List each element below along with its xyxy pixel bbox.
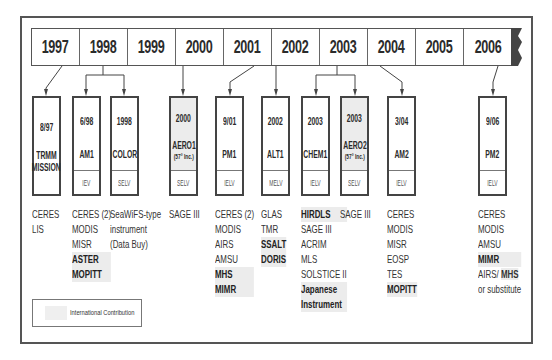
instrument-item: SAGE III [169, 207, 200, 222]
mission-name-line: PM2 [485, 148, 499, 160]
instrument-item: MOPITT [72, 267, 111, 282]
year-cell-2000: 2000 [176, 29, 224, 65]
instrument-item: instrument [110, 222, 161, 237]
timeline-year-bar: 1997199819992000200120022003200420052006 [31, 28, 513, 66]
mission-box-trmm: 8/97TRMMMISSION [32, 96, 61, 196]
mission-box-header: 3/04AM2 [389, 98, 414, 174]
mission-date: 2003 [308, 115, 323, 127]
mission-name: AERO2(57° Inc.) [336, 139, 374, 163]
instrument-list-aero2: SAGE III [340, 207, 383, 222]
instrument-item: MIMR [478, 252, 521, 267]
mission-name-line: ALT1 [267, 148, 284, 160]
instrument-item: Japanese [301, 282, 347, 297]
launch-vehicle-cell: IEV [74, 170, 99, 194]
year-cell-1999: 1999 [128, 29, 176, 65]
year-label: 2006 [475, 37, 502, 58]
instrument-item: Instrument [301, 297, 347, 312]
instrument-list-aero1: SAGE III [169, 207, 212, 222]
mission-name-line: AERO2 [343, 139, 367, 151]
instrument-item: CERES (2) [72, 207, 111, 222]
instrument-item: MODIS [387, 222, 417, 237]
launch-vehicle-label: IELV [487, 177, 497, 189]
mission-box-am2: 3/04AM2IELV [387, 96, 416, 196]
launch-vehicle-label: IEV [83, 177, 91, 189]
launch-vehicle-cell: IELV [217, 170, 242, 194]
year-label: 2001 [234, 37, 261, 58]
mission-box-chem1: 2003CHEM1IELV [301, 96, 330, 196]
mission-date: 2000 [176, 112, 191, 124]
instrument-item: EOSP [387, 252, 417, 267]
legend-label: International Contribution [70, 308, 134, 317]
year-label: 1997 [42, 37, 69, 58]
year-cell-1998: 1998 [80, 29, 128, 65]
instrument-item: MIMR [215, 282, 254, 297]
launch-vehicle-label: SELV [348, 177, 360, 189]
mission-box-header: 2000AERO1(57° Inc.) [171, 98, 196, 174]
mission-date: 8/97 [40, 121, 53, 133]
mission-name: AM1 [75, 148, 98, 160]
instrument-item: MHS [215, 267, 254, 282]
year-label: 2000 [186, 37, 213, 58]
instrument-text-international: MHS [501, 268, 519, 280]
launch-vehicle-label: IELV [224, 177, 234, 189]
mission-inclination-note: (57° Inc.) [344, 151, 364, 163]
mission-box-header: 2003AERO2(57° Inc.) [342, 98, 367, 174]
mission-box-pm1: 9/01PM1IELV [215, 96, 244, 196]
legend: International Contribution [32, 299, 142, 327]
instrument-item: MODIS [215, 222, 254, 237]
mission-name: PM1 [218, 148, 241, 160]
mission-date: 2002 [268, 115, 283, 127]
instrument-item: LIS [32, 222, 59, 237]
instrument-item: AIRS/ MHS [478, 267, 521, 282]
instrument-item: GLAS [261, 207, 286, 222]
launch-vehicle-cell: SELV [112, 170, 137, 194]
mission-box-header: 8/97TRMMMISSION [34, 98, 59, 194]
timeline-end-flag-icon [511, 28, 522, 66]
instrument-item: ACRIM [301, 237, 347, 252]
instrument-item: CERES (2) [215, 207, 254, 222]
instrument-list-alt1: GLASTMRSSALTDORIS [261, 207, 296, 267]
year-cell-1997: 1997 [32, 29, 80, 65]
mission-box-alt1: 2002ALT1MELV [261, 96, 290, 196]
instrument-item: TES [387, 267, 417, 282]
launch-vehicle-cell: MELV [263, 170, 288, 194]
instrument-item: MODIS [478, 222, 521, 237]
instrument-item: TMR [261, 222, 286, 237]
instrument-list-trmm: CERESLIS [32, 207, 70, 237]
year-cell-2005: 2005 [416, 29, 464, 65]
mission-name-line: CHEM1 [304, 148, 328, 160]
instrument-item: SeaWiFS-type [110, 207, 161, 222]
instrument-item: AMSU [478, 237, 521, 252]
launch-vehicle-label: MELV [269, 177, 282, 189]
mission-box-header: 9/01PM1 [217, 98, 242, 174]
instrument-text: AIRS/ [478, 268, 501, 280]
mission-box-header: 2002ALT1 [263, 98, 288, 174]
launch-vehicle-cell: SELV [342, 170, 367, 194]
year-cell-2004: 2004 [368, 29, 416, 65]
instrument-item: CERES [387, 207, 417, 222]
mission-box-color: 1998COLORSELV [110, 96, 139, 196]
mission-box-header: 1998COLOR [112, 98, 137, 174]
instrument-item: SAGE III [340, 207, 371, 222]
mission-name-line: COLOR [112, 148, 137, 160]
launch-vehicle-cell: IELV [480, 170, 505, 194]
year-label: 2005 [426, 37, 453, 58]
launch-vehicle-cell: SELV [171, 170, 196, 194]
mission-date: 3/04 [395, 115, 408, 127]
launch-vehicle-label: SELV [118, 177, 130, 189]
instrument-item: SSALT [261, 237, 286, 252]
year-label: 1999 [138, 37, 165, 58]
year-cell-2003: 2003 [320, 29, 368, 65]
instrument-list-chem1: HIRDLSSAGE IIIACRIMMLSSOLSTICE IIJapanes… [301, 207, 365, 312]
mission-name: CHEM1 [296, 148, 335, 160]
mission-box-am1: 6/98AM1IEV [72, 96, 101, 196]
instrument-list-am2: CERESMODISMISREOSPTESMOPITT [387, 207, 429, 297]
instrument-item: MISR [72, 237, 111, 252]
mission-box-aero2: 2003AERO2(57° Inc.)SELV [340, 96, 369, 196]
launch-vehicle-cell: IELV [389, 170, 414, 194]
instrument-item: MOPITT [387, 282, 417, 297]
instrument-item: DORIS [261, 252, 286, 267]
mission-name-line: AM1 [79, 148, 93, 160]
mission-name: COLOR [105, 148, 145, 160]
mission-name-line: MISSION [32, 161, 61, 173]
